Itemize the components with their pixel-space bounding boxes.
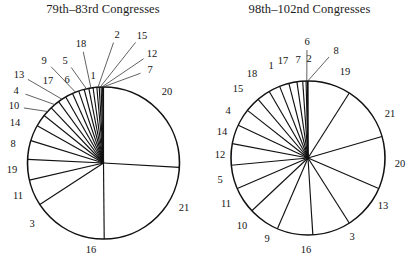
pie-slice-label: 13 xyxy=(14,69,25,80)
pie-slice-label: 20 xyxy=(162,86,173,97)
pie-chart-figure: 79th–83rd Congresses 98th–102nd Congress… xyxy=(0,0,413,259)
pie-slice-label: 5 xyxy=(62,55,67,66)
pie-slice-label: 9 xyxy=(41,55,46,66)
left-pie xyxy=(28,87,180,239)
pie-slice-label: 18 xyxy=(76,38,87,49)
pie-slice-label: 9 xyxy=(264,233,269,244)
pie-slice-label: 21 xyxy=(179,202,190,213)
pie-slice-label: 2 xyxy=(114,29,119,40)
right-pie xyxy=(231,81,385,235)
label-leader-line xyxy=(24,108,48,112)
pie-slice-label: 15 xyxy=(233,83,244,94)
pie-slice-label: 8 xyxy=(333,45,338,56)
pie-slice-label: 12 xyxy=(215,149,226,160)
pie-slice-label: 4 xyxy=(13,85,19,96)
pie-slice-label: 7 xyxy=(295,54,300,65)
pie-slice-label: 11 xyxy=(13,190,23,201)
pie-slice-label: 20 xyxy=(395,158,406,169)
pie-slice-label: 1 xyxy=(90,70,95,81)
pie-slice-label: 4 xyxy=(225,105,231,116)
pie-charts-canvas: 202116311198141041317965181215127 192120… xyxy=(0,0,413,259)
pie-slice-label: 14 xyxy=(10,117,21,128)
pie-slice-label: 15 xyxy=(137,30,148,41)
pie-slice-label: 21 xyxy=(385,108,396,119)
pie-slice-label: 17 xyxy=(43,75,54,86)
pie-slice-label: 19 xyxy=(340,66,351,77)
pie-slice-label: 18 xyxy=(247,68,258,79)
label-leader-line xyxy=(26,94,55,104)
pie-slice-label: 17 xyxy=(278,55,289,66)
label-leader-line xyxy=(102,59,144,87)
pie-slice-label: 10 xyxy=(9,100,20,111)
pie-slice-label: 16 xyxy=(301,244,312,255)
pie-slice-label: 3 xyxy=(29,218,34,229)
pie-slice-label: 6 xyxy=(304,36,309,47)
pie-slice-label: 2 xyxy=(306,53,311,64)
pie-slice-label: 11 xyxy=(221,198,231,209)
pie-slice-label: 3 xyxy=(349,231,354,242)
pie-slice-label: 5 xyxy=(217,174,222,185)
pie-slice-label: 12 xyxy=(147,48,158,59)
pie-slice-label: 14 xyxy=(217,126,228,137)
pie-slice-label: 16 xyxy=(86,244,97,255)
pie-slice-label: 19 xyxy=(7,164,18,175)
pie-slice-label: 8 xyxy=(10,138,15,149)
pie-slice-label: 10 xyxy=(237,220,248,231)
label-leader-line xyxy=(103,73,141,87)
pie-slice-divider xyxy=(104,163,105,239)
pie-slice-label: 13 xyxy=(378,200,389,211)
pie-slice-label: 7 xyxy=(147,64,152,75)
pie-slice-label: 6 xyxy=(64,74,69,85)
pie-slice-label: 1 xyxy=(268,60,273,71)
label-leader-line xyxy=(71,67,86,88)
